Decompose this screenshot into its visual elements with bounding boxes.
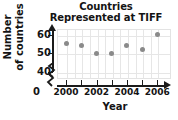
y-axis-title: Number of countries — [2, 0, 32, 76]
x-tick-mark — [112, 80, 113, 85]
x-tick-mark — [81, 80, 82, 85]
gridline-vertical-minor — [151, 30, 152, 78]
x-tick-label: 2002 — [84, 87, 110, 97]
x-tick-label: 2004 — [114, 87, 140, 97]
x-tick-mark — [66, 80, 67, 85]
y-axis-title-line-1: Number — [2, 0, 14, 76]
x-tick-mark — [142, 80, 143, 85]
x-axis-title: Year — [55, 101, 175, 112]
gridline-vertical-minor — [105, 30, 106, 78]
gridline-vertical-minor — [75, 30, 76, 78]
axis-origin-label: 0 — [33, 86, 40, 97]
gridline-vertical — [143, 30, 144, 78]
y-tick-label: 40 — [29, 67, 51, 77]
chart-title-line-2: Represented at TIFF — [34, 12, 178, 23]
gridline-vertical — [67, 30, 68, 78]
gridline-vertical-minor — [90, 30, 91, 78]
data-point — [155, 32, 160, 37]
chart-title: Countries Represented at TIFF — [34, 1, 178, 23]
data-point — [94, 51, 99, 56]
gridline-vertical — [82, 30, 83, 78]
gridline-vertical — [158, 30, 159, 78]
y-tick-label: 50 — [29, 48, 51, 58]
gridline-vertical-minor — [136, 30, 137, 78]
data-point — [109, 51, 114, 56]
gridline-vertical-minor — [120, 30, 121, 78]
x-tick-mark — [127, 80, 128, 85]
x-tick-mark — [97, 80, 98, 85]
x-tick-label: 2006 — [144, 87, 170, 97]
chart-figure: Countries Represented at TIFF Number of … — [0, 0, 178, 120]
y-axis-title-line-2: of countries — [14, 0, 26, 76]
data-point — [79, 43, 84, 48]
gridline-vertical — [128, 30, 129, 78]
chart-title-line-1: Countries — [34, 1, 178, 12]
x-tick-mark — [157, 80, 158, 85]
plot-area — [57, 29, 171, 79]
data-point — [140, 47, 145, 52]
x-tick-label: 2000 — [53, 87, 79, 97]
data-point — [64, 41, 69, 46]
y-tick-label: 60 — [29, 30, 51, 40]
